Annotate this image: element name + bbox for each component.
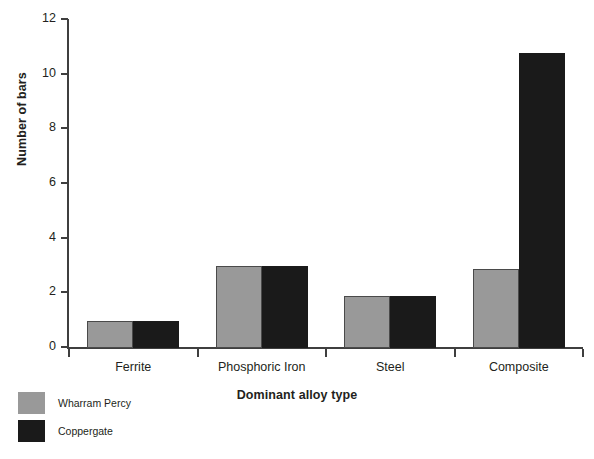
y-tick-mark [61,291,68,293]
bar-ferrite-wharram-percy [87,321,133,348]
legend-swatch-icon-coppergate [18,420,45,442]
x-tick-mark [325,349,327,357]
legend-item-series-b: Coppergate [18,417,131,445]
x-tick-mark [68,349,70,357]
legend-swatch-icon-wharram-percy [18,392,45,414]
y-tick-mark [61,73,68,75]
y-tick-mark [61,18,68,20]
y-tick-mark [61,182,68,184]
y-tick-mark [61,127,68,129]
x-tick-label: Composite [439,360,594,374]
plot-area [69,19,583,348]
y-tick-label: 12 [28,12,56,24]
bar-phosphoric-iron-coppergate [262,266,308,348]
y-tick-mark [61,346,68,348]
bar-steel-wharram-percy [344,296,390,348]
x-tick-mark [582,349,584,357]
y-tick-label: 2 [28,285,56,297]
bar-composite-wharram-percy [473,269,519,348]
x-tick-mark [197,349,199,357]
x-tick-mark [454,349,456,357]
y-tick-label: 10 [28,67,56,79]
legend-label-coppergate: Coppergate [58,425,113,437]
legend-item-series-a: Wharram Percy [18,389,131,417]
bar-steel-coppergate [390,296,436,348]
bar-chart: Number of bars 024681012 FerritePhosphor… [0,0,594,459]
chart-legend: Wharram Percy Coppergate [18,389,131,445]
y-axis-title: Number of bars [15,49,29,189]
legend-label-wharram-percy: Wharram Percy [58,397,131,409]
y-tick-mark [61,237,68,239]
y-tick-label: 4 [28,231,56,243]
y-tick-label: 6 [28,176,56,188]
bar-phosphoric-iron-wharram-percy [216,266,262,348]
y-tick-label: 8 [28,121,56,133]
bar-ferrite-coppergate [133,321,179,348]
bar-composite-coppergate [519,53,565,348]
y-tick-label: 0 [28,340,56,352]
